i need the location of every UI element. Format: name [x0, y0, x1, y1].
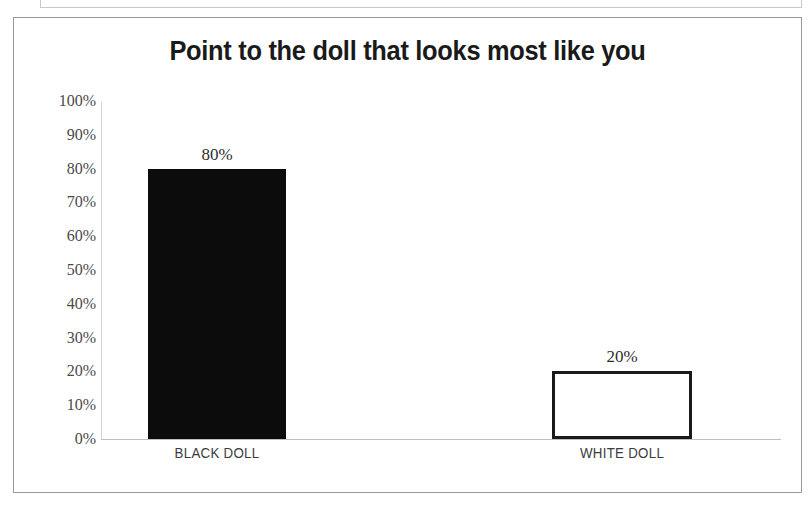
- x-category-label: BLACK DOLL: [175, 445, 260, 461]
- bar-value-label: 80%: [201, 145, 232, 165]
- y-tick-label: 70%: [16, 193, 96, 211]
- y-tick-label: 100%: [16, 92, 96, 110]
- chart-container: Point to the doll that looks most like y…: [13, 17, 802, 493]
- y-tick-label: 20%: [16, 362, 96, 380]
- y-tick-label: 40%: [16, 295, 96, 313]
- clipped-box-above-chart: [40, 0, 802, 8]
- plot-area: 80%20%: [101, 101, 781, 439]
- y-tick-label: 90%: [16, 126, 96, 144]
- y-tick-label: 80%: [16, 160, 96, 178]
- y-axis-tick-labels: 0%10%20%30%40%50%60%70%80%90%100%: [14, 101, 96, 439]
- y-tick-label: 0%: [16, 430, 96, 448]
- white-doll-bar[interactable]: [552, 371, 692, 439]
- black-doll-bar[interactable]: [148, 169, 286, 439]
- y-tick-label: 60%: [16, 227, 96, 245]
- y-tick-label: 10%: [16, 396, 96, 414]
- x-category-label: WHITE DOLL: [580, 445, 664, 461]
- chart-title: Point to the doll that looks most like y…: [38, 36, 778, 67]
- y-tick-label: 30%: [16, 329, 96, 347]
- screenshot-root: Point to the doll that looks most like y…: [0, 0, 812, 505]
- bar-value-label: 20%: [606, 347, 637, 367]
- y-tick-label: 50%: [16, 261, 96, 279]
- x-axis-baseline: [101, 439, 781, 440]
